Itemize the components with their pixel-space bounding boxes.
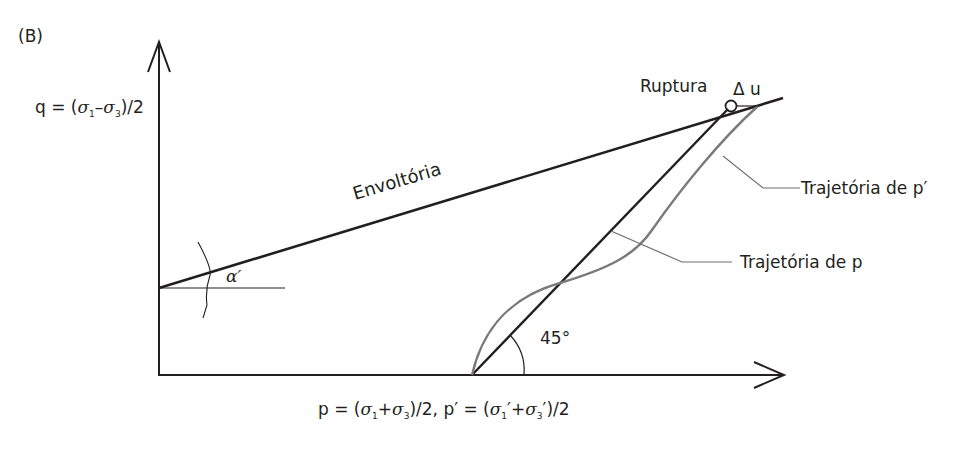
- x-axis: [159, 362, 784, 388]
- alpha-label: α′: [226, 266, 241, 286]
- panel-label: (B): [18, 26, 43, 46]
- failure-envelope-line: [159, 98, 783, 288]
- angle-45-label: 45°: [540, 328, 570, 348]
- y-axis-label: q = (σ1–σ3)/2: [35, 97, 144, 119]
- delta-u-label: Δ u: [733, 79, 761, 99]
- total-path-leader-line: [611, 231, 732, 262]
- rupture-point-marker: [726, 101, 737, 112]
- x-axis-label: p = (σ1+σ3)/2, p′ = (σ1′+σ3′)/2: [318, 399, 570, 421]
- effective-stress-path-curve: [472, 106, 758, 375]
- effective-path-leader-line: [723, 156, 800, 188]
- envelope-label: Envoltória: [350, 158, 443, 204]
- y-axis: [148, 42, 170, 376]
- stress-path-diagram: (B) q = (σ1–σ3)/2 p = (σ1+σ3)/2, p′ = (σ…: [0, 0, 976, 450]
- rupture-label: Ruptura: [640, 76, 707, 96]
- total-path-label: Trajetória de p: [739, 252, 863, 272]
- angle-45-arc: [510, 335, 524, 375]
- alpha-angle-arc: [198, 242, 210, 318]
- effective-path-label: Trajetória de p′: [800, 178, 928, 198]
